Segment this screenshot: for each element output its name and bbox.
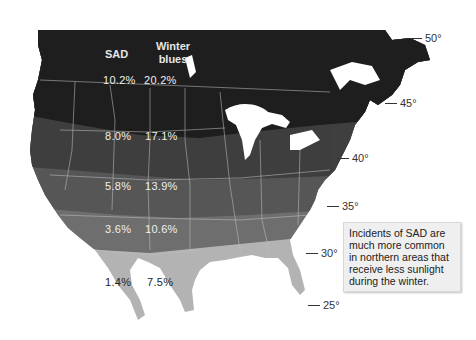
tick-mark [327,206,339,207]
winter-blues-header: Winter blues [148,40,198,66]
annotation-note: Incidents of SAD are much more common in… [343,222,461,292]
band-5-sad: 1.4% [105,276,131,288]
tick-mark [308,305,320,306]
latitude-35: 35° [327,200,359,212]
band-5-winter-blues: 7.5% [147,276,173,288]
sad-header: SAD [105,48,128,61]
latitude-40: 40° [337,152,369,164]
tick-mark [306,253,318,254]
latitude-25: 25° [308,299,340,311]
band-2-winter-blues: 17.1% [145,130,178,142]
band-1-winter-blues: 20.2% [144,74,177,86]
band-3-winter-blues: 13.9% [145,180,178,192]
band-4-winter-blues: 10.6% [145,223,178,235]
tick-mark [337,158,349,159]
latitude-50: 50° [410,32,442,44]
band-2-sad: 8.0% [105,130,131,142]
band-1-sad: 10.2% [103,74,136,86]
tick-mark [385,103,397,104]
band-4-sad: 3.6% [105,223,131,235]
latitude-45: 45° [385,97,417,109]
latitude-30: 30° [306,247,338,259]
band-3-sad: 5.8% [105,180,131,192]
tick-mark [410,38,422,39]
